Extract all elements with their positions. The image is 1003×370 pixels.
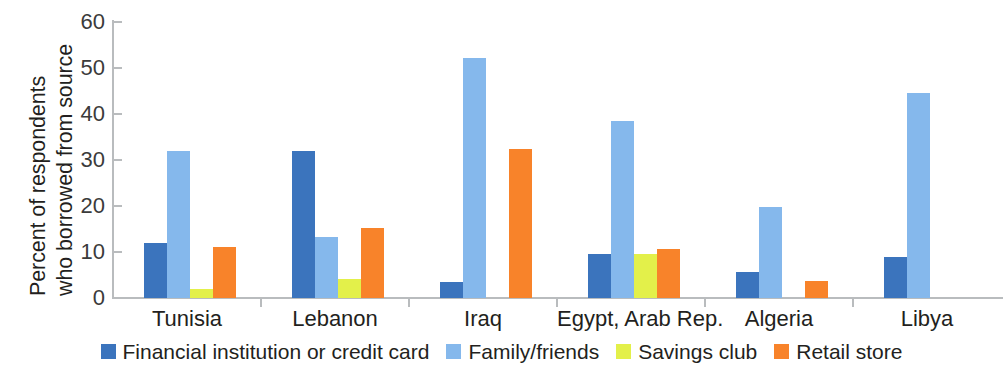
bar (190, 289, 213, 298)
bar (736, 272, 759, 298)
y-axis-tick-label: 20 (55, 193, 105, 219)
legend-swatch-icon (616, 344, 631, 359)
legend-swatch-icon (101, 344, 116, 359)
bar (657, 249, 680, 298)
bar (315, 237, 338, 298)
y-axis-tick-label: 30 (55, 147, 105, 173)
bar (884, 257, 907, 298)
plot-area (113, 22, 1001, 298)
legend-item[interactable]: Family/friends (446, 341, 599, 362)
bar (213, 247, 236, 298)
legend-swatch-icon (774, 344, 789, 359)
chart-legend: Financial institution or credit cardFami… (0, 341, 1003, 362)
bar (759, 207, 782, 298)
bar (588, 254, 611, 298)
bar (805, 281, 828, 298)
y-axis-tick-label: 0 (55, 285, 105, 311)
bar-chart: Percent of respondents who borrowed from… (0, 0, 1003, 370)
legend-item[interactable]: Financial institution or credit card (101, 341, 430, 362)
legend-item[interactable]: Retail store (774, 341, 902, 362)
bar (292, 151, 315, 298)
x-axis-category-label: Egypt, Arab Rep. (557, 306, 705, 332)
legend-label: Financial institution or credit card (123, 341, 430, 362)
legend-swatch-icon (446, 344, 461, 359)
legend-item[interactable]: Savings club (616, 341, 757, 362)
bar (463, 58, 486, 298)
bar (611, 121, 634, 298)
x-axis-category-label: Libya (853, 306, 1001, 332)
y-axis-title-line-1: Percent of respondents (26, 76, 51, 296)
bar (634, 254, 657, 298)
x-axis-category-label: Iraq (409, 306, 557, 332)
bar (907, 93, 930, 298)
bar (361, 228, 384, 298)
legend-label: Family/friends (468, 341, 599, 362)
bar (144, 243, 167, 298)
legend-label: Retail store (796, 341, 902, 362)
legend-label: Savings club (638, 341, 757, 362)
y-axis-tick-label: 60 (55, 9, 105, 35)
y-axis-tick-label: 40 (55, 101, 105, 127)
x-axis-category-label: Algeria (705, 306, 853, 332)
x-axis-category-label: Tunisia (113, 306, 261, 332)
bar (167, 151, 190, 298)
y-axis-tick-label: 10 (55, 239, 105, 265)
bar (509, 149, 532, 298)
y-axis-tick-label: 50 (55, 55, 105, 81)
bar (338, 279, 361, 298)
bar (440, 282, 463, 298)
x-axis-category-label: Lebanon (261, 306, 409, 332)
